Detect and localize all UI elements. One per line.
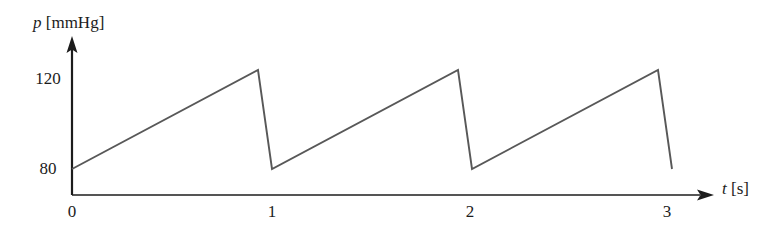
y-tick-label-120: 120: [29, 70, 67, 87]
time-axis: [72, 190, 714, 201]
y-axis-title: p [mmHg]: [33, 14, 104, 31]
x-axis-unit: [s]: [731, 179, 749, 198]
x-tick-label-1: 1: [260, 203, 284, 220]
y-axis-symbol: p: [33, 13, 42, 32]
y-tick-label-80: 80: [29, 160, 67, 177]
x-tick-label-3: 3: [655, 203, 679, 220]
pressure-waveform-figure: p [mmHg] t [s] 120 80 0 1 2 3: [0, 0, 777, 240]
y-axis-unit: [mmHg]: [46, 13, 105, 32]
pressure-axis: [67, 36, 78, 195]
x-axis-title: t [s]: [722, 180, 749, 197]
x-tick-label-0: 0: [60, 203, 84, 220]
x-tick-label-2: 2: [458, 203, 482, 220]
pressure-waveform-curve: [72, 70, 672, 169]
